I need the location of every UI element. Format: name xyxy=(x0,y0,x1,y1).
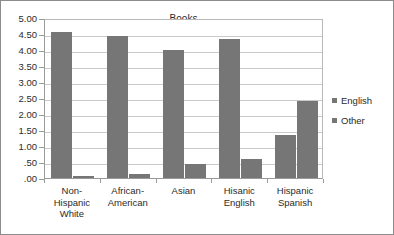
bar-other xyxy=(129,174,150,178)
y-tick-label: .50 xyxy=(1,158,37,168)
x-tick-mark xyxy=(44,179,45,183)
y-axis: 5.004.504.003.503.002.502.001.501.00.50.… xyxy=(1,19,37,179)
x-category-label: African- American xyxy=(100,185,156,208)
y-tick-label: 3.00 xyxy=(1,78,37,88)
bar-english xyxy=(51,32,72,178)
legend-item-english[interactable]: English xyxy=(332,96,372,106)
chart-container: Books 5.004.504.003.503.002.502.001.501.… xyxy=(0,0,394,235)
x-tick-mark xyxy=(323,179,324,183)
bar-group xyxy=(212,20,268,178)
y-tick-label: 1.00 xyxy=(1,142,37,152)
legend-label: English xyxy=(341,96,372,106)
x-axis: Non- Hispanic WhiteAfrican- AmericanAsia… xyxy=(44,182,323,232)
bar-group xyxy=(157,20,213,178)
bar-group xyxy=(268,20,324,178)
x-tick-mark xyxy=(267,179,268,183)
y-tick-label: 1.50 xyxy=(1,126,37,136)
x-tick-mark xyxy=(156,179,157,183)
y-tick-label: 2.50 xyxy=(1,94,37,104)
bar-english xyxy=(163,50,184,178)
bar-english xyxy=(107,36,128,178)
chart-legend: EnglishOther xyxy=(332,96,372,135)
bar-other xyxy=(297,101,318,178)
x-tick-mark xyxy=(100,179,101,183)
legend-swatch-icon xyxy=(332,98,337,103)
y-tick-label: 4.50 xyxy=(1,30,37,40)
legend-label: Other xyxy=(341,116,365,126)
y-tick-label: .00 xyxy=(1,174,37,184)
x-category-label: Asian xyxy=(156,185,212,197)
bar-group xyxy=(101,20,157,178)
x-tick-mark xyxy=(211,179,212,183)
bar-other xyxy=(73,176,94,178)
bar-other xyxy=(241,159,262,178)
x-category-label: Hisanic English xyxy=(211,185,267,208)
bar-english xyxy=(219,39,240,178)
x-category-label: Non- Hispanic White xyxy=(44,185,100,220)
legend-item-other[interactable]: Other xyxy=(332,116,372,126)
legend-swatch-icon xyxy=(332,118,337,123)
plot-area xyxy=(44,19,323,179)
bar-english xyxy=(275,135,296,178)
y-tick-label: 5.00 xyxy=(1,14,37,24)
x-category-label: Hispanic Spanish xyxy=(267,185,323,208)
bar-group xyxy=(45,20,101,178)
y-tick-label: 2.00 xyxy=(1,110,37,120)
bar-other xyxy=(185,164,206,178)
y-tick-label: 4.00 xyxy=(1,46,37,56)
y-tick-label: 3.50 xyxy=(1,62,37,72)
